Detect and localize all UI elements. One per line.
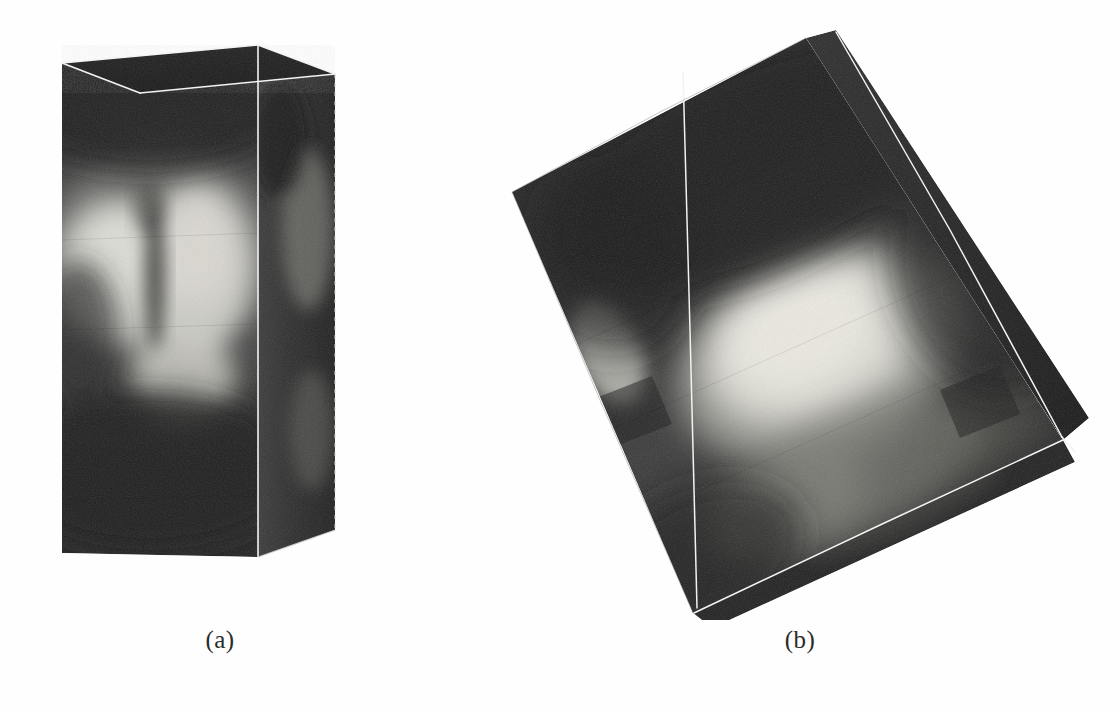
volume-render-a-svg (0, 0, 460, 620)
volume-render-panel-b (460, 0, 1120, 620)
volume-b-main-face (460, 0, 1120, 620)
panel-caption-b: (b) (700, 626, 900, 654)
volume-a-front-face (0, 0, 460, 620)
volume-render-b-svg (460, 0, 1120, 620)
panel-caption-a: (a) (120, 626, 320, 654)
volume-render-panel-a (0, 0, 460, 620)
figure-root: (a) (b) (0, 0, 1120, 712)
